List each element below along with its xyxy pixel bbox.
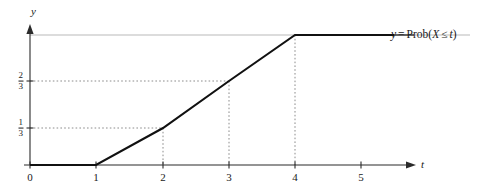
curve-label-relation: ≤ [439,28,449,40]
y-axis-arrow-icon [26,24,33,34]
curve-label-prob-open: Prob( [407,28,433,40]
y-tick-label-two-thirds: 2 3 [18,71,25,92]
fraction-denominator: 3 [18,129,25,138]
x-tick-label-1: 1 [93,172,99,183]
fraction-numerator: 1 [18,118,25,127]
fraction-numerator: 2 [18,71,25,80]
cdf-plot-figure: y t 0 1 2 3 4 5 2 3 1 3 y=Prob(X≤t) [0,0,504,195]
x-tick-label-3: 3 [226,172,232,183]
y-axis-label: y [31,6,36,17]
x-tick-label-5: 5 [358,172,364,183]
curve-annotation-label: y=Prob(X≤t) [391,29,457,41]
cdf-curve [30,35,394,165]
fraction-denominator: 3 [18,82,25,91]
y-tick-label-one-third: 1 3 [18,118,25,139]
x-axis-label: t [421,159,424,170]
curve-label-prob-close: ) [453,28,457,40]
x-tick-label-2: 2 [160,172,166,183]
x-tick-label-0: 0 [27,172,33,183]
x-tick-label-4: 4 [292,172,298,183]
curve-label-equals: = [396,28,407,40]
x-axis-arrow-icon [406,161,416,168]
